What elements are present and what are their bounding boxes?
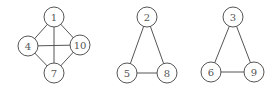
node-label: 8	[164, 68, 170, 79]
node-6: 6	[201, 62, 221, 82]
node-label: 2	[144, 12, 150, 23]
node-label: 6	[208, 67, 214, 78]
node-label: 9	[251, 67, 257, 78]
node-1: 1	[44, 7, 64, 27]
node-5: 5	[117, 63, 137, 83]
graph-c: 369	[201, 7, 264, 82]
graph-diagram: 14107258369	[0, 0, 275, 91]
node-2: 2	[137, 7, 157, 27]
node-4: 4	[18, 36, 38, 56]
node-label: 3	[230, 12, 236, 23]
node-label: 10	[74, 40, 87, 51]
node-10: 10	[70, 35, 90, 55]
node-8: 8	[157, 63, 177, 83]
node-3: 3	[223, 7, 243, 27]
node-7: 7	[44, 63, 64, 83]
node-9: 9	[244, 62, 264, 82]
node-label: 5	[124, 68, 130, 79]
node-label: 7	[51, 68, 57, 79]
node-label: 1	[51, 12, 57, 23]
node-label: 4	[25, 41, 31, 52]
graph-a: 14107	[18, 7, 90, 83]
graph-b: 258	[117, 7, 177, 83]
